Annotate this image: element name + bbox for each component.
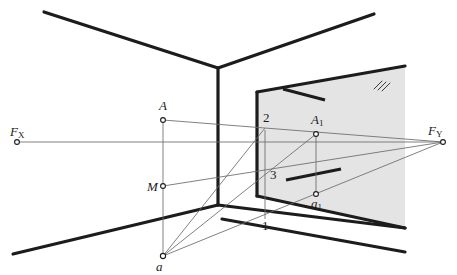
label-A1: A1 <box>311 113 323 128</box>
label-point-1: 1 <box>262 219 269 232</box>
label-point-2: 2 <box>263 111 270 124</box>
label-M: M <box>147 180 158 193</box>
point-marker-FX[interactable] <box>15 140 20 145</box>
label-point-1-text: 1 <box>262 218 269 233</box>
figure-canvas <box>0 0 457 275</box>
label-a-letter: a <box>156 259 163 274</box>
label-A: A <box>159 99 167 112</box>
label-a: a <box>156 260 163 273</box>
label-FX-letter: F <box>10 124 18 139</box>
point-marker-A1[interactable] <box>314 132 319 137</box>
label-FY: FY <box>428 124 442 139</box>
ceiling-left-edge <box>44 12 218 68</box>
label-a1-subscript: 1 <box>318 202 323 212</box>
label-FY-letter: F <box>428 123 436 138</box>
point-marker-FY[interactable] <box>441 140 446 145</box>
label-M-letter: M <box>147 179 158 194</box>
label-A1-subscript: 1 <box>319 118 324 128</box>
label-FX-subscript: X <box>18 130 25 140</box>
label-point-3-text: 3 <box>270 167 277 182</box>
point-marker-a[interactable] <box>160 253 165 258</box>
label-point-3: 3 <box>270 168 277 181</box>
point-marker-A[interactable] <box>161 118 166 123</box>
label-FY-subscript: Y <box>436 129 443 139</box>
label-A1-letter: A <box>311 112 319 127</box>
perspective-projection-figure: FX FY A M a A1 a1 1 2 3 <box>0 0 457 275</box>
label-a1: a1 <box>311 197 322 212</box>
floor-left-edge <box>13 205 218 254</box>
label-point-2-text: 2 <box>263 110 270 125</box>
ray-a-to-point2 <box>163 128 265 256</box>
ceiling-right-edge <box>218 14 374 68</box>
point-marker-M[interactable] <box>161 184 166 189</box>
label-FX: FX <box>10 125 24 140</box>
label-A-letter: A <box>159 98 167 113</box>
